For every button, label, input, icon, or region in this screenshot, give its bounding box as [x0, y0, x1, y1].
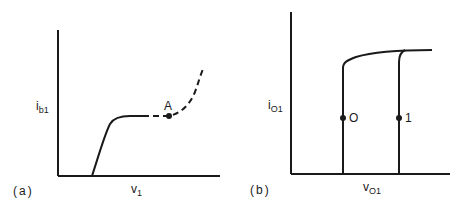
panel-a-plot [58, 30, 220, 176]
panel-a-solid-curve [92, 116, 143, 176]
panel-b-tag: (b) [250, 184, 271, 196]
y-label-sub: O1 [271, 104, 283, 114]
panel-b-point-1 [396, 115, 402, 121]
panel-b-y-label: iO1 [268, 99, 283, 111]
panel-a-tag: (a) [13, 185, 34, 197]
x-label-sub: 1 [137, 188, 142, 198]
panel-a-point-A [166, 113, 172, 119]
panel-b-point-0 [340, 115, 346, 121]
panel-b-point-0-label: O [349, 112, 358, 124]
panel-a-point-A-label: A [164, 100, 172, 112]
panel-b-plot [291, 12, 450, 174]
panel-a-y-label: ib1 [36, 100, 49, 112]
panel-b-x-label: vO1 [363, 181, 381, 193]
panel-a-x-label: v v1 [131, 183, 142, 195]
y-label-sub: b1 [39, 105, 49, 115]
diagram-canvas [0, 0, 465, 215]
x-label-sub: O1 [369, 186, 381, 196]
panel-a-dashed-curve [143, 69, 203, 116]
panel-b-point-1-label: 1 [405, 112, 412, 124]
